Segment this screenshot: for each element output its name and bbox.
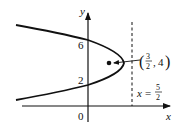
svg-text:x: x [136,87,142,99]
parabola-diagram: y x 0 6 2 ( 3 2 , 4 ) x = 5 2 [0,0,180,129]
svg-text:4: 4 [158,56,164,68]
pointer-arrow [114,60,140,63]
x-axis-label: x [165,110,171,122]
svg-text:=: = [145,87,151,99]
y-axis-label: y [79,5,85,17]
directrix-label: x = 5 2 [136,83,162,102]
point-label: ( 3 2 , 4 ) [139,52,170,71]
svg-text:5: 5 [156,83,160,92]
svg-text:,: , [153,56,156,68]
y-tick-2: 2 [78,74,84,86]
svg-text:): ) [165,53,170,71]
svg-text:(: ( [139,53,144,71]
svg-text:2: 2 [146,62,150,71]
origin-label: 0 [78,110,84,122]
svg-text:2: 2 [156,93,160,102]
y-tick-6: 6 [78,39,84,51]
focus-point [107,61,112,66]
svg-text:3: 3 [146,52,150,61]
